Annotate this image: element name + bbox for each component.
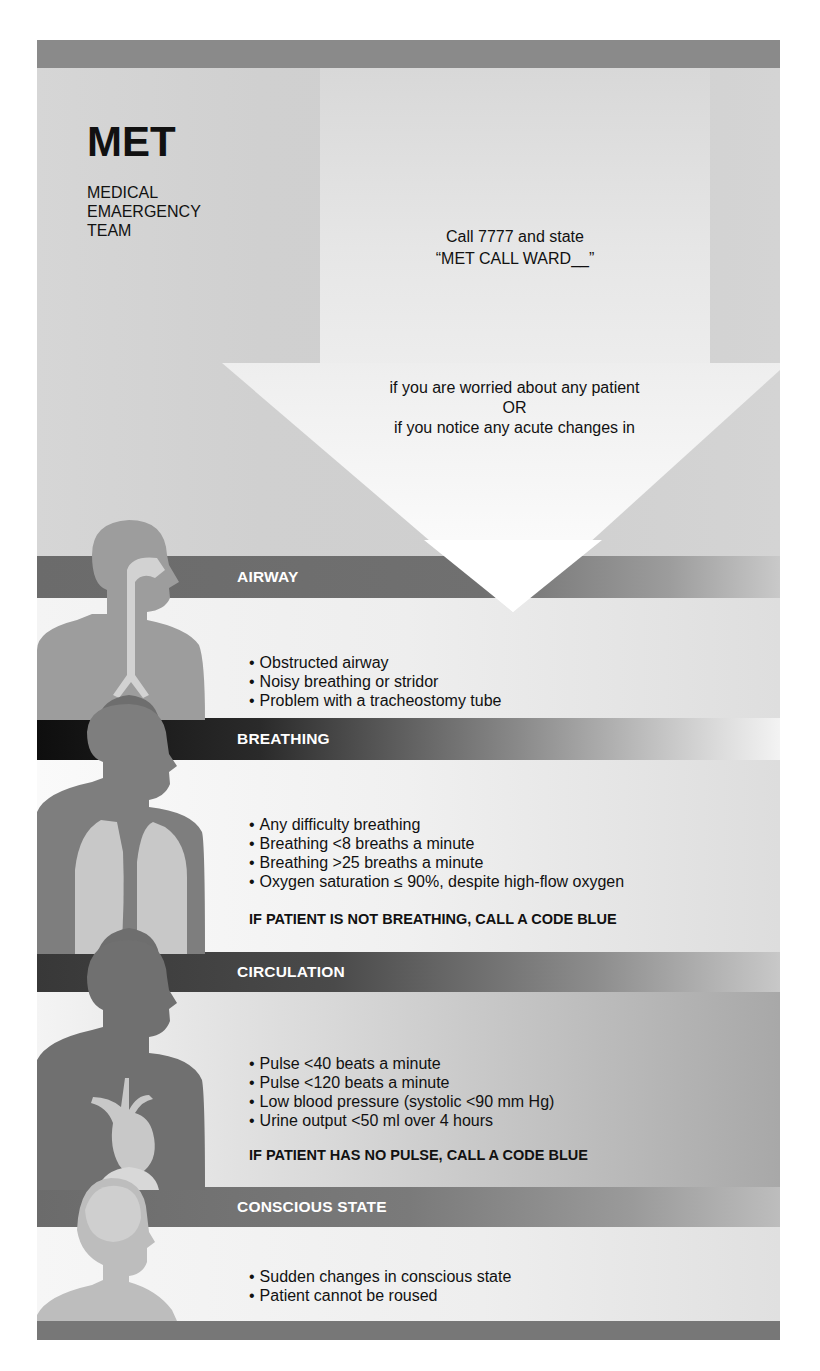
- airway-criteria: Obstructed airway Noisy breathing or str…: [249, 653, 502, 710]
- list-item: Any difficulty breathing: [249, 815, 624, 834]
- list-item: Patient cannot be roused: [249, 1286, 511, 1305]
- breathing-code-blue-warning: IF PATIENT IS NOT BREATHING, CALL A CODE…: [249, 911, 617, 927]
- section-label-circulation: CIRCULATION: [237, 952, 345, 992]
- list-item: Pulse <40 beats a minute: [249, 1054, 554, 1073]
- list-item: Oxygen saturation ≤ 90%, despite high-fl…: [249, 872, 624, 891]
- section-label-breathing: BREATHING: [237, 718, 330, 760]
- list-item: Breathing <8 breaths a minute: [249, 834, 624, 853]
- lungs-figure-icon: [37, 702, 217, 954]
- list-item: Breathing >25 breaths a minute: [249, 853, 624, 872]
- list-item: Sudden changes in conscious state: [249, 1267, 511, 1286]
- list-item: Obstructed airway: [249, 653, 502, 672]
- breathing-criteria: Any difficulty breathing Breathing <8 br…: [249, 815, 624, 891]
- condition-or: OR: [237, 398, 780, 418]
- circulation-criteria: Pulse <40 beats a minute Pulse <120 beat…: [249, 1054, 554, 1130]
- condition-line: if you are worried about any patient: [237, 378, 780, 398]
- bottom-bar: [37, 1321, 780, 1340]
- heart-figure-icon: [37, 935, 217, 1190]
- list-item: Urine output <50 ml over 4 hours: [249, 1111, 554, 1130]
- conscious-state-criteria: Sudden changes in conscious state Patien…: [249, 1267, 511, 1305]
- list-item: Pulse <120 beats a minute: [249, 1073, 554, 1092]
- condition-line: if you notice any acute changes in: [237, 418, 780, 438]
- met-poster: MET MEDICAL EMAERGENCY TEAM Call 7777 an…: [37, 40, 780, 1340]
- airway-figure-icon: [37, 510, 217, 720]
- list-item: Noisy breathing or stridor: [249, 672, 502, 691]
- trigger-conditions: if you are worried about any patient OR …: [237, 378, 780, 438]
- list-item: Problem with a tracheostomy tube: [249, 691, 502, 710]
- section-label-conscious-state: CONSCIOUS STATE: [237, 1187, 387, 1227]
- list-item: Low blood pressure (systolic <90 mm Hg): [249, 1092, 554, 1111]
- brain-figure-icon: [37, 1170, 217, 1321]
- circulation-code-blue-warning: IF PATIENT HAS NO PULSE, CALL A CODE BLU…: [249, 1147, 588, 1163]
